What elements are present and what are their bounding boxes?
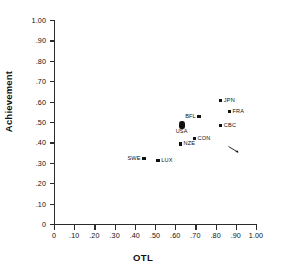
y-tick-mark: [50, 163, 55, 164]
y-tick-mark: [50, 61, 55, 62]
point-label: NZE: [183, 141, 195, 147]
point-marker: [219, 124, 222, 127]
point-label: JPN: [224, 98, 235, 104]
point-marker: [156, 159, 159, 162]
y-tick-mark: [50, 204, 55, 205]
x-tick-mark: [74, 225, 75, 230]
y-tick-label: .90: [14, 36, 46, 45]
y-tick-mark: [50, 81, 55, 82]
x-tick-mark: [94, 225, 95, 230]
y-tick-mark: [50, 20, 55, 21]
x-tick-mark: [135, 225, 136, 230]
y-tick-label: .50: [14, 118, 46, 127]
usa-leader-line: [228, 146, 239, 153]
x-axis-title: OTL: [0, 252, 286, 263]
y-tick-mark: [50, 142, 55, 143]
point-marker: [219, 99, 222, 102]
y-tick-label: .20: [14, 179, 46, 188]
x-tick-mark: [115, 225, 116, 230]
x-tick-label: 1.00: [241, 231, 271, 240]
scatter-plot-figure: 0.10.20.30.40.50.60.70.80.901.00 0.10.20…: [0, 0, 286, 278]
x-tick-mark: [155, 225, 156, 230]
y-tick-label: .80: [14, 56, 46, 65]
point-marker: [193, 137, 196, 140]
point-label: USA: [176, 129, 188, 135]
point-label: LUX: [161, 158, 172, 164]
point-label: BFL: [185, 114, 196, 120]
x-tick-mark: [195, 225, 196, 230]
point-label: SWE: [127, 156, 140, 162]
y-tick-mark: [50, 102, 55, 103]
x-tick-mark: [256, 225, 257, 230]
y-tick-mark: [50, 122, 55, 123]
x-tick-mark: [216, 225, 217, 230]
y-tick-mark: [50, 40, 55, 41]
point-marker: [142, 157, 145, 160]
y-tick-label: .60: [14, 97, 46, 106]
x-tick-mark: [175, 225, 176, 230]
point-label: FRA: [233, 109, 245, 115]
y-tick-label: .70: [14, 77, 46, 86]
y-tick-label: .10: [14, 199, 46, 208]
x-tick-mark: [54, 225, 55, 230]
y-tick-label: .30: [14, 158, 46, 167]
y-tick-mark: [50, 183, 55, 184]
point-label: CON: [198, 136, 211, 142]
y-tick-label: 0: [14, 220, 46, 229]
y-tick-label: 1.00: [14, 16, 46, 25]
y-axis-title: Achievement: [3, 22, 14, 182]
point-marker: [179, 142, 182, 145]
point-marker: [197, 115, 200, 118]
plot-area: 0.10.20.30.40.50.60.70.80.901.00 0.10.20…: [54, 20, 256, 224]
point-label: CBC: [224, 123, 236, 129]
point-marker: [228, 110, 231, 113]
x-tick-mark: [236, 225, 237, 230]
y-tick-label: .40: [14, 138, 46, 147]
